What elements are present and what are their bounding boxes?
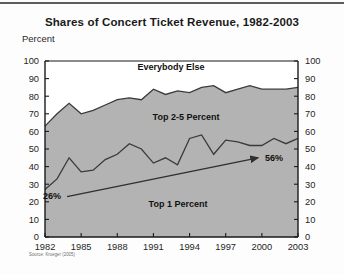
x-tick-label: 2003 — [288, 242, 309, 252]
chart-canvas: 0010102020303040405050606070708080909010… — [0, 0, 344, 275]
annotation-end-value: 56% — [265, 153, 283, 163]
y-tick-label-left: 10 — [29, 215, 39, 225]
y-tick-label-right: 100 — [305, 56, 321, 66]
x-tick-label: 1994 — [179, 242, 200, 252]
y-tick-label-right: 20 — [305, 197, 315, 207]
annotation-start-value: 26% — [43, 191, 61, 201]
x-tick-label: 1982 — [35, 242, 56, 252]
y-tick-label-left: 60 — [29, 127, 39, 137]
source-note: Source: Krueger (2005) — [29, 252, 75, 258]
y-tick-label-left: 40 — [29, 162, 39, 172]
band-label-top-2-5-percent: Top 2-5 Percent — [153, 112, 220, 122]
y-tick-label-left: 80 — [29, 92, 39, 102]
y-tick-label-left: 70 — [29, 109, 39, 119]
y-tick-label-right: 80 — [305, 92, 315, 102]
x-tick-label: 1991 — [143, 242, 164, 252]
y-tick-label-right: 60 — [305, 127, 315, 137]
y-tick-label-right: 50 — [305, 144, 315, 154]
y-tick-label-right: 0 — [305, 232, 310, 242]
band-label-top-1-percent: Top 1 Percent — [149, 199, 208, 209]
y-tick-label-left: 90 — [29, 74, 39, 84]
y-tick-label-right: 90 — [305, 74, 315, 84]
y-tick-label-left: 20 — [29, 197, 39, 207]
y-tick-label-left: 100 — [23, 56, 39, 66]
x-tick-label: 2000 — [252, 242, 273, 252]
x-tick-label: 1988 — [107, 242, 128, 252]
y-tick-label-right: 70 — [305, 109, 315, 119]
y-tick-label-right: 30 — [305, 180, 315, 190]
x-tick-label: 1997 — [215, 242, 236, 252]
y-tick-label-left: 0 — [34, 232, 39, 242]
y-tick-label-left: 50 — [29, 144, 39, 154]
chart-figure: Shares of Concert Ticket Revenue, 1982-2… — [0, 0, 344, 275]
band-label-everybody-else: Everybody Else — [137, 62, 204, 72]
x-tick-label: 1985 — [71, 242, 92, 252]
y-tick-label-right: 10 — [305, 215, 315, 225]
y-tick-label-left: 30 — [29, 180, 39, 190]
y-tick-label-right: 40 — [305, 162, 315, 172]
